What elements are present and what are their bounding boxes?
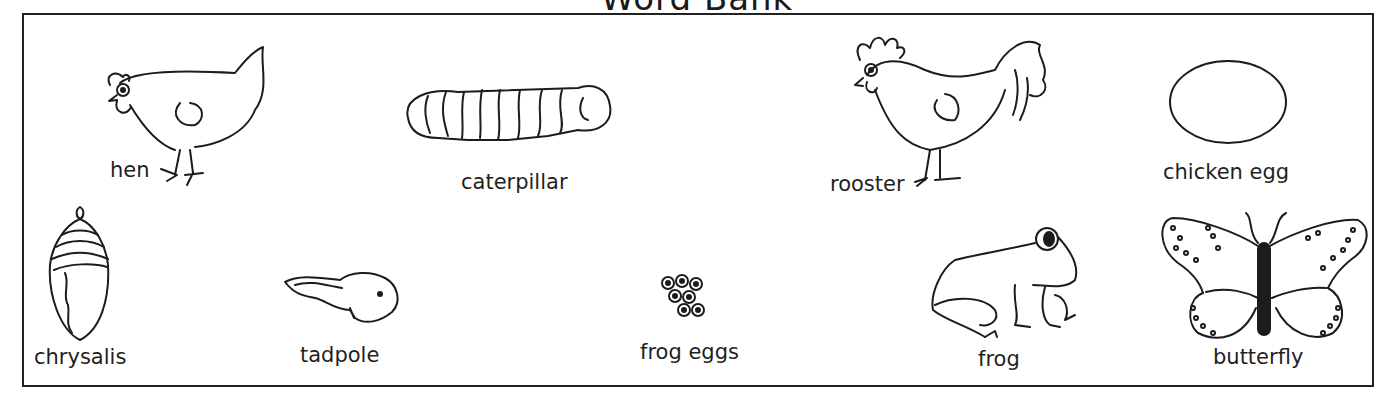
chrysalis-icon — [40, 205, 120, 345]
label-chrysalis: chrysalis — [34, 345, 126, 369]
label-frog-eggs: frog eggs — [640, 340, 739, 364]
rooster-icon — [845, 30, 1050, 185]
tadpole-icon — [280, 270, 405, 325]
label-caterpillar: caterpillar — [461, 170, 568, 194]
label-tadpole: tadpole — [300, 343, 379, 367]
label-frog: frog — [978, 347, 1020, 371]
butterfly-icon — [1158, 208, 1372, 343]
chicken-egg-icon — [1168, 60, 1288, 145]
frog-eggs-icon — [660, 275, 710, 320]
frog-icon — [925, 225, 1090, 340]
caterpillar-icon — [398, 78, 618, 148]
label-hen: hen — [110, 158, 150, 182]
label-rooster: rooster — [830, 172, 905, 196]
label-butterfly: butterfly — [1213, 345, 1303, 369]
label-chicken-egg: chicken egg — [1163, 160, 1289, 184]
